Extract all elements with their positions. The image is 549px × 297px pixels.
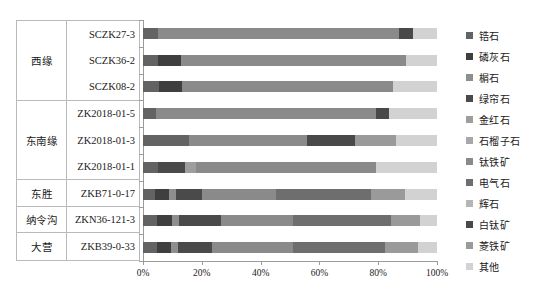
- bar-row[interactable]: [143, 81, 437, 92]
- bar-segment[interactable]: [157, 242, 171, 253]
- bar-row[interactable]: [143, 28, 437, 39]
- legend-item[interactable]: 榍石: [466, 67, 544, 88]
- bar-segment[interactable]: [178, 242, 212, 253]
- bar-segment[interactable]: [179, 215, 220, 226]
- x-tick-label: 20%: [193, 268, 210, 278]
- bar-segment[interactable]: [406, 55, 437, 66]
- bar-segment[interactable]: [158, 162, 185, 173]
- sample-label: ZK2018-01-5: [67, 101, 139, 128]
- x-tick: [143, 261, 144, 265]
- bar-segment[interactable]: [413, 28, 437, 39]
- bar-segment[interactable]: [202, 189, 277, 200]
- y-tick: [139, 20, 143, 21]
- legend-swatch-icon: [466, 137, 473, 144]
- x-axis-line: [143, 261, 437, 262]
- bar-segment[interactable]: [189, 135, 307, 146]
- legend-item[interactable]: 菱铁矿: [466, 235, 544, 256]
- bar-segment[interactable]: [143, 81, 159, 92]
- bar-segment[interactable]: [181, 55, 406, 66]
- legend-swatch-icon: [466, 221, 473, 228]
- legend-item[interactable]: 白钛矿: [466, 214, 544, 235]
- sample-label: ZK2018-01-1: [67, 154, 139, 181]
- bar-segment[interactable]: [405, 189, 437, 200]
- legend-swatch-icon: [466, 200, 473, 207]
- bar-segment[interactable]: [143, 162, 158, 173]
- x-tick: [261, 261, 262, 265]
- bar-segment[interactable]: [355, 135, 396, 146]
- bar-row[interactable]: [143, 108, 437, 119]
- x-tick-label: 0%: [137, 268, 150, 278]
- bar-row[interactable]: [143, 189, 437, 200]
- bar-segment[interactable]: [212, 242, 293, 253]
- bar-segment[interactable]: [391, 215, 421, 226]
- x-tick: [319, 261, 320, 265]
- legend-item[interactable]: 电气石: [466, 172, 544, 193]
- bar-segment[interactable]: [418, 242, 437, 253]
- bar-segment[interactable]: [143, 28, 158, 39]
- bar-segment[interactable]: [143, 242, 157, 253]
- bar-row[interactable]: [143, 55, 437, 66]
- bar-segment[interactable]: [169, 189, 177, 200]
- legend-label: 榍石: [479, 70, 500, 85]
- bar-segment[interactable]: [158, 28, 399, 39]
- bar-segment[interactable]: [376, 108, 389, 119]
- y-tick: [139, 74, 143, 75]
- sample-label: SCZK27-3: [67, 21, 139, 48]
- legend-label: 其他: [479, 259, 500, 274]
- bar-segment[interactable]: [143, 55, 158, 66]
- bar-segment[interactable]: [182, 81, 394, 92]
- bar-segment[interactable]: [385, 242, 417, 253]
- bar-segment[interactable]: [293, 215, 391, 226]
- legend-label: 锆石: [479, 28, 500, 43]
- bar-row[interactable]: [143, 135, 437, 146]
- group-label-2: 东南缘: [17, 101, 66, 181]
- bar-segment[interactable]: [158, 55, 181, 66]
- bar-segment[interactable]: [420, 215, 437, 226]
- legend-item[interactable]: 金红石: [466, 109, 544, 130]
- x-tick: [378, 261, 379, 265]
- legend-item[interactable]: 磷灰石: [466, 46, 544, 67]
- bar-segment[interactable]: [171, 242, 178, 253]
- bar-segment[interactable]: [399, 28, 413, 39]
- bar-segment[interactable]: [159, 81, 182, 92]
- legend-swatch-icon: [466, 95, 473, 102]
- legend-item[interactable]: 辉石: [466, 193, 544, 214]
- bar-segment[interactable]: [276, 189, 371, 200]
- bar-segment[interactable]: [396, 135, 437, 146]
- bar-segment[interactable]: [143, 108, 156, 119]
- bar-segment[interactable]: [307, 135, 355, 146]
- y-tick: [139, 127, 143, 128]
- legend-item[interactable]: 其他: [466, 256, 544, 277]
- bar-segment[interactable]: [393, 81, 437, 92]
- bar-segment[interactable]: [143, 135, 189, 146]
- bar-segment[interactable]: [376, 162, 437, 173]
- y-tick: [139, 181, 143, 182]
- x-tick-label: 80%: [369, 268, 386, 278]
- bar-segment[interactable]: [221, 215, 293, 226]
- bar-segment[interactable]: [176, 189, 201, 200]
- bar-row[interactable]: [143, 215, 437, 226]
- bar-row[interactable]: [143, 242, 437, 253]
- bar-segment[interactable]: [196, 162, 376, 173]
- bar-segment[interactable]: [172, 215, 180, 226]
- sample-label: SCZK08-2: [67, 74, 139, 101]
- bar-segment[interactable]: [185, 162, 196, 173]
- y-tick: [139, 47, 143, 48]
- legend-item[interactable]: 钛铁矿: [466, 151, 544, 172]
- bar-segment[interactable]: [155, 189, 168, 200]
- bar-segment[interactable]: [143, 215, 157, 226]
- x-tick: [437, 261, 438, 265]
- bar-segment[interactable]: [157, 215, 172, 226]
- bar-row[interactable]: [143, 162, 437, 173]
- legend-label: 磷灰石: [479, 49, 510, 64]
- bar-segment[interactable]: [389, 108, 437, 119]
- legend-item[interactable]: 石榴子石: [466, 130, 544, 151]
- legend-item[interactable]: 绿帘石: [466, 88, 544, 109]
- bar-segment[interactable]: [156, 108, 376, 119]
- bar-segment[interactable]: [293, 242, 386, 253]
- bar-segment[interactable]: [371, 189, 405, 200]
- bar-segment[interactable]: [143, 189, 155, 200]
- group-label-4: 纳令沟: [17, 207, 66, 234]
- x-tick-label: 100%: [426, 268, 448, 278]
- legend-item[interactable]: 锆石: [466, 25, 544, 46]
